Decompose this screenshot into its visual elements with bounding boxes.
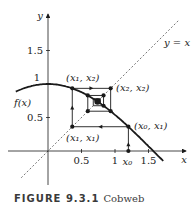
cobweb-point xyxy=(70,125,74,129)
cobweb-point xyxy=(101,104,105,108)
y-tick-label: 0.5 xyxy=(27,112,43,123)
label-x1-x1: (x₁, x₁) xyxy=(66,132,100,143)
cobweb-point xyxy=(86,93,90,97)
caption-figure-number: FIGURE 9.3.1 xyxy=(14,193,99,204)
cobweb-point xyxy=(101,93,105,97)
arrow-head xyxy=(89,86,93,90)
cobweb-point xyxy=(109,86,113,90)
cobweb-figure: xy0.511.50.511.5(x₁, x₂)(x₂, x₂)(x₀, x₁)… xyxy=(0,0,194,190)
cobweb-point xyxy=(109,109,113,113)
x-tick-label: 1 xyxy=(112,155,118,166)
cobweb-point xyxy=(126,149,130,153)
arrow-head xyxy=(70,106,74,110)
diagonal-label: y = x xyxy=(163,37,190,48)
cobweb-point xyxy=(70,86,74,90)
curve-label: f(x) xyxy=(13,97,31,108)
x-tick-label: 1.5 xyxy=(141,155,157,166)
x-axis-label: x xyxy=(181,154,187,165)
cobweb-point xyxy=(126,125,130,129)
figure-caption: FIGURE 9.3.1Cobweb xyxy=(14,188,144,205)
x0-label: x₀ xyxy=(123,156,133,167)
label-x1-x2: (x₁, x₂) xyxy=(66,72,100,83)
arrow-head xyxy=(98,125,102,129)
y-tick-label: 1 xyxy=(34,72,40,83)
label-x2-x2: (x₂, x₂) xyxy=(116,82,150,93)
arrow-head xyxy=(126,142,130,146)
x-tick-label: 0.5 xyxy=(74,155,90,166)
label-x0-x1: (x₀, x₁) xyxy=(134,120,168,131)
y-tick-label: 1.5 xyxy=(27,45,43,56)
caption-text: Cobweb xyxy=(103,193,144,204)
cobweb-point xyxy=(86,109,90,113)
y-axis-label: y xyxy=(36,10,43,21)
fixed-point xyxy=(94,98,100,104)
